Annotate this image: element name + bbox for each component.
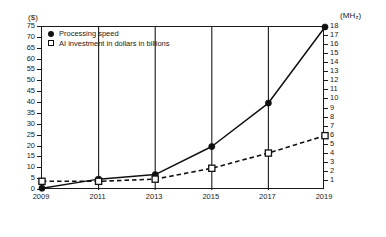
left-axis-tick-label: 65 xyxy=(27,44,35,52)
left-axis-tick-label: 50 xyxy=(27,77,35,85)
x-axis-tick-label: 2015 xyxy=(202,192,219,201)
x-axis-tick-label: 2017 xyxy=(259,192,276,201)
right-axis-tick-label: 6 xyxy=(330,131,334,139)
data-point-filled-circle xyxy=(265,100,271,106)
x-axis-tick-label: 2019 xyxy=(316,192,333,201)
right-axis-unit-label: (MHz) xyxy=(340,11,361,20)
legend-item-processing-speed: Processing speed xyxy=(48,30,169,38)
data-point-open-square xyxy=(322,133,328,139)
right-axis-tick-label: 17 xyxy=(330,31,338,39)
plot-svg xyxy=(42,27,325,190)
right-axis: 123456789101112131415161718 xyxy=(324,26,386,189)
legend-item-ai-investment: AI investment in dollars in billions xyxy=(48,40,169,48)
right-axis-tick-label: 8 xyxy=(330,113,334,121)
left-axis-tick-label: 75 xyxy=(27,22,35,30)
left-axis-tick-label: 70 xyxy=(27,33,35,41)
legend-label-processing-speed: Processing speed xyxy=(59,30,119,38)
x-axis-tick-label: 2013 xyxy=(146,192,163,201)
right-axis-unit-base: (MH xyxy=(340,11,355,20)
open-square-icon xyxy=(48,40,54,46)
right-axis-tick-label: 11 xyxy=(330,86,338,94)
data-point-filled-circle xyxy=(322,24,328,30)
right-axis-tick-label: 1 xyxy=(330,176,334,184)
right-axis-tick-label: 5 xyxy=(330,140,334,148)
plot-area xyxy=(41,26,324,189)
left-axis-tick-label: 60 xyxy=(27,55,35,63)
x-axis-tick-label: 2009 xyxy=(33,192,50,201)
data-point-open-square xyxy=(209,165,215,171)
left-axis-tick-label: 40 xyxy=(27,98,35,106)
left-axis-tick-label: 45 xyxy=(27,87,35,95)
right-axis-tick-label: 16 xyxy=(330,40,338,48)
right-axis-tick-label: 18 xyxy=(330,22,338,30)
data-point-filled-circle xyxy=(39,185,45,191)
data-point-filled-circle xyxy=(209,143,215,149)
right-axis-tick-label: 9 xyxy=(330,104,334,112)
right-axis-tick-label: 4 xyxy=(330,149,334,157)
left-axis-tick-label: 55 xyxy=(27,66,35,74)
left-axis-tick-label: 10 xyxy=(27,164,35,172)
left-axis: 051015202530354045505560657075 xyxy=(0,26,41,189)
left-axis-tick-label: 35 xyxy=(27,109,35,117)
x-axis-tick-label: 2011 xyxy=(90,192,106,201)
filled-circle-icon xyxy=(48,31,54,37)
right-axis-tick-label: 7 xyxy=(330,122,334,130)
right-axis-tick-label: 14 xyxy=(330,58,338,66)
left-axis-tick-label: 5 xyxy=(31,174,35,182)
data-point-open-square xyxy=(96,178,102,184)
series-line-filled-circle xyxy=(42,27,325,188)
data-point-open-square xyxy=(39,178,45,184)
right-axis-unit-close: ) xyxy=(359,11,362,20)
left-axis-tick-label: 20 xyxy=(27,142,35,150)
x-axis: 200920112013201520172019 xyxy=(41,192,324,212)
right-axis-tick-label: 2 xyxy=(330,167,334,175)
data-point-open-square xyxy=(152,176,158,182)
left-axis-tick-label: 15 xyxy=(27,153,35,161)
right-axis-tick-label: 15 xyxy=(330,49,338,57)
right-axis-tick-label: 10 xyxy=(330,95,338,103)
right-axis-tick-label: 12 xyxy=(330,77,338,85)
series-line-open-square xyxy=(42,136,325,182)
right-axis-tick-label: 13 xyxy=(330,68,338,76)
data-point-open-square xyxy=(265,150,271,156)
legend-label-ai-investment: AI investment in dollars in billions xyxy=(59,40,169,48)
left-axis-tick-label: 25 xyxy=(27,131,35,139)
right-axis-tick-label: 3 xyxy=(330,158,334,166)
left-axis-tick-label: 30 xyxy=(27,120,35,128)
chart-legend: Processing speed AI investment in dollar… xyxy=(48,30,169,47)
chart-figure: ($) (MHz) 051015202530354045505560657075… xyxy=(0,0,386,237)
